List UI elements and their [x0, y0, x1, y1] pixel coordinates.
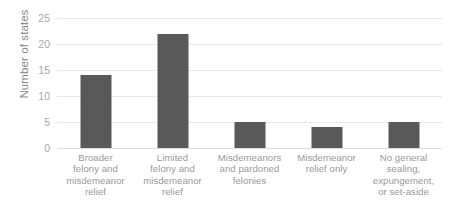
bar-slot — [134, 18, 211, 148]
y-tick-label: 5 — [44, 116, 50, 128]
y-tick-label: 15 — [38, 64, 50, 76]
y-tick-label: 25 — [38, 12, 50, 24]
x-axis-label-line: sealing, — [365, 163, 442, 174]
y-axis-title: Number of states — [18, 0, 30, 124]
x-axis-labels: Broaderfelony andmisdemeanorreliefLimite… — [57, 152, 442, 206]
y-tick-label: 20 — [38, 38, 50, 50]
bar-slot — [211, 18, 288, 148]
bar — [80, 75, 111, 148]
x-axis-label-line: relief only — [288, 163, 365, 174]
bar — [388, 122, 419, 148]
x-axis-label-line: Misdemeanor — [288, 152, 365, 163]
x-axis-label-line: No general — [365, 152, 442, 163]
x-axis-label-line: felonies — [211, 175, 288, 186]
bar-chart: Number of states 0510152025 Broaderfelon… — [0, 0, 452, 208]
x-axis-label-line: expungement, — [365, 175, 442, 186]
x-axis-label-line: Broader — [57, 152, 134, 163]
x-axis-label-line: felony and — [134, 163, 211, 174]
bars-group — [57, 18, 442, 148]
x-axis-label: Broaderfelony andmisdemeanorrelief — [57, 152, 134, 198]
bar — [311, 127, 342, 148]
bar-slot — [57, 18, 134, 148]
x-axis-label: Limitedfelony andmisdemeanorrelief — [134, 152, 211, 198]
y-tick-label: 0 — [44, 142, 50, 154]
y-tick-label: 10 — [38, 90, 50, 102]
x-axis-label-line: relief — [57, 186, 134, 197]
x-axis-label-line: relief — [134, 186, 211, 197]
x-axis-label-line: Limited — [134, 152, 211, 163]
gridline: 0 — [57, 148, 442, 149]
x-axis-label: No generalsealing,expungement,or set-asi… — [365, 152, 442, 198]
plot-area: 0510152025 — [57, 18, 442, 148]
x-axis-label-line: Misdemeanors — [211, 152, 288, 163]
bar — [234, 122, 265, 148]
x-axis-label: Misdemeanorrelief only — [288, 152, 365, 175]
x-axis-label-line: misdemeanor — [134, 175, 211, 186]
x-axis-label: Misdemeanorsand pardonedfelonies — [211, 152, 288, 186]
x-axis-label-line: and pardoned — [211, 163, 288, 174]
bar-slot — [365, 18, 442, 148]
bar — [157, 34, 188, 148]
bar-slot — [288, 18, 365, 148]
x-axis-label-line: or set-aside — [365, 186, 442, 197]
x-axis-label-line: misdemeanor — [57, 175, 134, 186]
x-axis-label-line: felony and — [57, 163, 134, 174]
